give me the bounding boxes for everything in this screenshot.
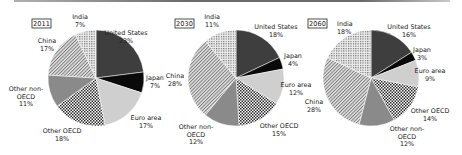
pie-2060 — [323, 30, 419, 126]
slice-label: India7% — [72, 13, 88, 29]
pie-2030 — [188, 30, 284, 126]
slice-label: Other OECD15% — [260, 122, 299, 138]
slice-label: Japan7% — [145, 74, 164, 90]
year-label: 2060 — [309, 20, 326, 28]
slice-label: China17% — [38, 37, 56, 53]
slice-label: India11% — [204, 13, 220, 29]
slice-label: Euro area17% — [131, 114, 162, 130]
pie-charts: 2011United States23%Japan7%Euro area17%O… — [0, 0, 462, 155]
slice-label: Japan4% — [283, 52, 302, 68]
year-label: 2011 — [33, 20, 50, 28]
slice-label: Other non-OECD12% — [390, 125, 425, 148]
slice-label: Euro area12% — [281, 81, 312, 97]
slice-label: Other non-OECD11% — [9, 85, 44, 108]
slice-label: Other OECD14% — [411, 107, 450, 123]
year-label: 2030 — [176, 20, 193, 28]
slice-label: China28% — [166, 72, 184, 88]
slice-label: Euro area9% — [415, 67, 446, 83]
slice-label: Other OECD18% — [43, 127, 82, 143]
slice-label: India18% — [337, 20, 353, 36]
slice-label: Other non-OECD12% — [179, 123, 214, 146]
slice-label: China28% — [305, 98, 323, 114]
slice-label: United States18% — [254, 23, 298, 39]
